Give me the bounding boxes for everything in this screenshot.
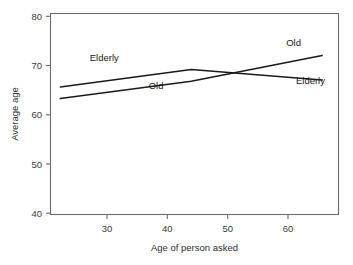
series-label-elderly-right: Elderly — [296, 75, 325, 86]
y-tick-label-80: 80 — [31, 11, 42, 22]
x-tick-label-60: 60 — [283, 223, 294, 234]
series-line-elderly — [60, 70, 322, 87]
y-tick-label-40: 40 — [31, 208, 42, 219]
series-label-elderly-left: Elderly — [90, 52, 119, 63]
x-tick-label-30: 30 — [102, 223, 113, 234]
line-chart: 80 70 60 50 40 30 40 50 60 Age of person… — [0, 0, 353, 265]
y-axis-ticks — [46, 16, 51, 213]
x-axis-tick-labels: 30 40 50 60 — [102, 223, 294, 234]
x-axis-ticks — [107, 215, 288, 220]
y-tick-label-70: 70 — [31, 60, 42, 71]
y-axis-tick-labels: 80 70 60 50 40 — [31, 11, 42, 219]
y-axis-title: Average age — [9, 87, 20, 141]
y-tick-label-50: 50 — [31, 159, 42, 170]
chart-screenshot: 80 70 60 50 40 30 40 50 60 Age of person… — [0, 0, 353, 265]
series-label-old-left: Old — [149, 80, 164, 91]
x-tick-label-40: 40 — [162, 223, 173, 234]
y-tick-label-60: 60 — [31, 109, 42, 120]
x-axis-title: Age of person asked — [151, 242, 238, 253]
series-label-old-right: Old — [286, 37, 301, 48]
x-tick-label-50: 50 — [222, 223, 233, 234]
